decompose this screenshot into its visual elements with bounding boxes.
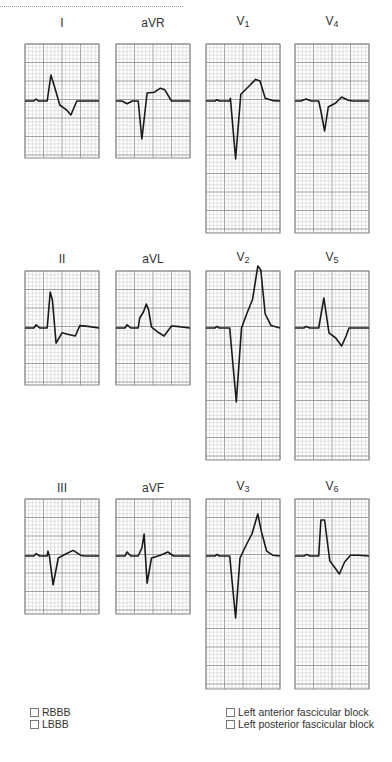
checkbox-rbbb[interactable]: RBBB [30, 706, 71, 718]
checkbox-lpfb[interactable]: Left posterior fascicular block [226, 718, 374, 730]
checkbox-label: Left posterior fascicular block [238, 718, 374, 730]
lead-name: aVF [142, 481, 164, 495]
lead-label-ii: II [25, 252, 99, 266]
ecg-grid [206, 271, 280, 460]
lead-label-v1: V1 [206, 14, 280, 29]
lead-name: V [325, 479, 333, 493]
lead-name: V [236, 250, 244, 264]
ecg-strip-v4 [295, 44, 369, 233]
lead-label-v3: V3 [206, 479, 280, 494]
ecg-grid [295, 44, 369, 233]
lead-subscript: 5 [334, 255, 339, 265]
checkbox-icon[interactable] [30, 720, 39, 729]
ecg-grid [295, 499, 369, 689]
lead-name: V [325, 250, 333, 264]
lead-subscript: 6 [334, 484, 339, 494]
ecg-strip-ii [25, 271, 99, 385]
lead-name: III [57, 481, 67, 495]
checkbox-label: LBBB [42, 718, 69, 730]
ecg-strip-avr [116, 44, 190, 158]
lead-subscript: 1 [245, 19, 250, 29]
ecg-strip-iii [25, 499, 99, 614]
checkbox-group-bundle-branch: RBBB LBBB [30, 706, 71, 730]
ecg-grid [25, 271, 99, 385]
lead-subscript: 3 [245, 484, 250, 494]
lead-name: I [60, 16, 63, 30]
checkbox-icon[interactable] [226, 720, 235, 729]
checkbox-label: Left anterior fascicular block [238, 706, 369, 718]
lead-label-v5: V5 [295, 250, 369, 265]
ecg-strip-v6 [295, 499, 369, 689]
header-divider [0, 6, 183, 7]
checkbox-label: RBBB [42, 706, 71, 718]
checkbox-group-fascicular: Left anterior fascicular block Left post… [226, 706, 374, 730]
checkbox-icon[interactable] [226, 708, 235, 717]
lead-name: aVR [141, 16, 164, 30]
lead-name: V [236, 14, 244, 28]
lead-label-i: I [25, 16, 99, 30]
ecg-strip-avl [116, 271, 190, 385]
ecg-grid [206, 44, 280, 233]
ecg-strip-avf [116, 499, 190, 614]
lead-label-v4: V4 [295, 14, 369, 29]
lead-subscript: 4 [334, 19, 339, 29]
checkbox-icon[interactable] [30, 708, 39, 717]
lead-label-v2: V2 [206, 250, 280, 265]
lead-label-avl: aVL [116, 252, 190, 266]
lead-name: V [325, 14, 333, 28]
lead-name: II [59, 252, 66, 266]
ecg-strip-v3 [206, 499, 280, 689]
lead-label-avf: aVF [116, 481, 190, 495]
ecg-strip-i [25, 44, 99, 158]
checkbox-lbbb[interactable]: LBBB [30, 718, 71, 730]
lead-label-v6: V6 [295, 479, 369, 494]
lead-subscript: 2 [245, 255, 250, 265]
lead-label-avr: aVR [116, 16, 190, 30]
ecg-strip-v5 [295, 271, 369, 460]
ecg-strip-v2 [206, 271, 280, 460]
ecg-strip-v1 [206, 44, 280, 233]
lead-label-iii: III [25, 481, 99, 495]
lead-name: aVL [142, 252, 163, 266]
ecg-grid [295, 271, 369, 460]
lead-name: V [236, 479, 244, 493]
ecg-grid [206, 499, 280, 689]
checkbox-lafb[interactable]: Left anterior fascicular block [226, 706, 374, 718]
